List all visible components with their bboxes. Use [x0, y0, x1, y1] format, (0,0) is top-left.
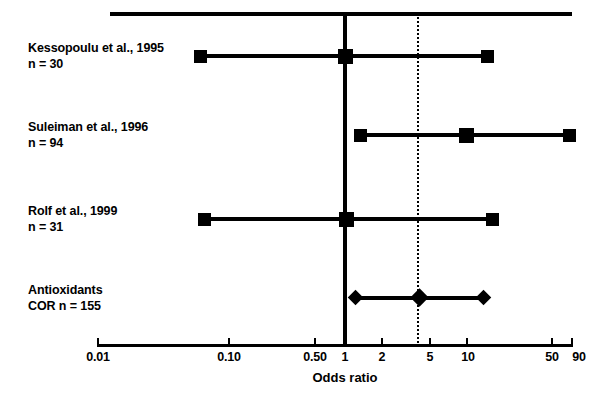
x-axis-tick-label-0.10: 0.10 [217, 350, 241, 364]
ci-cap-right-kessopoulu [481, 50, 494, 63]
point-estimate-kessopoulu [338, 49, 353, 64]
study-label-rolf: Rolf et al., 1999 n = 31 [28, 203, 117, 235]
ci-cap-left-suleiman [354, 129, 367, 142]
ci-cap-left-kessopoulu [194, 50, 207, 63]
x-axis-tick-label-90: 90 [572, 350, 586, 364]
x-axis-tick-50 [551, 338, 553, 347]
study-label-line1: Antioxidants [28, 283, 103, 297]
ci-cap-left-rolf [198, 213, 211, 226]
point-estimate-antioxidants-cor [410, 288, 428, 306]
point-estimate-rolf [339, 212, 354, 227]
study-label-line1: Kessopoulu et al., 1995 [28, 41, 164, 55]
x-axis-tick-label-10: 10 [461, 350, 475, 364]
study-label-line2: n = 94 [28, 135, 148, 151]
x-axis-tick-label-50: 50 [545, 350, 559, 364]
point-estimate-suleiman [459, 128, 474, 143]
x-axis-tick-5 [429, 338, 431, 347]
study-label-suleiman: Suleiman et al., 1996 n = 94 [28, 119, 148, 151]
x-axis-tick-label-2: 2 [379, 350, 386, 364]
study-label-line1: Suleiman et al., 1996 [28, 120, 148, 134]
study-label-line1: Rolf et al., 1999 [28, 204, 117, 218]
x-axis-tick-10 [466, 338, 468, 347]
x-axis-tick-2 [381, 338, 383, 347]
x-axis-tick-1 [344, 338, 346, 347]
x-axis-tick-0.01 [97, 338, 99, 347]
ci-cap-right-suleiman [563, 129, 576, 142]
x-axis-tick-90 [571, 338, 573, 347]
x-axis-tick-label-0.50: 0.50 [303, 350, 327, 364]
x-axis-title: Odds ratio [312, 370, 377, 385]
top-border-rule [110, 12, 572, 16]
x-axis-tick-label-1: 1 [342, 350, 349, 364]
forest-plot: Kessopoulu et al., 1995 n = 30 Suleiman … [0, 0, 603, 404]
study-label-antioxidants-cor: Antioxidants COR n = 155 [28, 282, 103, 314]
x-axis-tick-label-5: 5 [427, 350, 434, 364]
x-axis-tick-0.50 [314, 338, 316, 347]
ci-cap-right-antioxidants-cor [476, 290, 492, 306]
ci-cap-right-rolf [486, 213, 499, 226]
study-label-line2: COR n = 155 [28, 298, 103, 314]
study-label-kessopoulu: Kessopoulu et al., 1995 n = 30 [28, 40, 164, 72]
ci-cap-left-antioxidants-cor [348, 290, 364, 306]
study-label-line2: n = 31 [28, 219, 117, 235]
x-axis-tick-label-0.01: 0.01 [86, 350, 110, 364]
x-axis-line [97, 344, 572, 347]
study-label-line2: n = 30 [28, 56, 164, 72]
x-axis-tick-0.10 [228, 338, 230, 347]
